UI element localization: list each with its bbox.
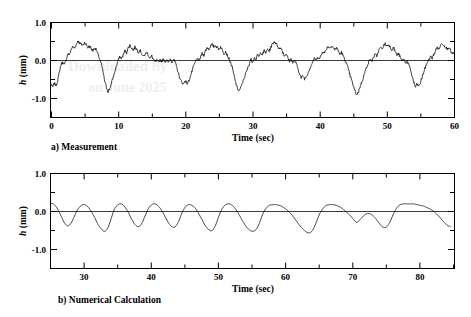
xtick-label-b-2: 50 (214, 272, 224, 282)
caption-a: a) Measurement (51, 142, 118, 153)
y-axis-title-a: h (mm) (18, 55, 29, 85)
xtick-label-a-6: 60 (450, 121, 460, 131)
x-axis-title-a: Time (sec) (232, 133, 274, 144)
ytick-label-a-1: 0.0 (35, 56, 47, 66)
xtick-label-a-2: 20 (181, 121, 191, 131)
x-axis-b: 30 40 50 60 70 80 (80, 174, 454, 283)
figure-container: Downloaded by on June 2025 1.0 0.0 (0, 0, 471, 317)
panel-a-measurement: 1.0 0.0 -1.0 (0, 0, 471, 160)
xtick-label-a-4: 40 (316, 121, 326, 131)
svg-text:h (mm): h (mm) (18, 55, 29, 85)
xtick-label-b-0: 30 (80, 272, 90, 282)
ytick-label-a-2: -1.0 (32, 94, 47, 104)
x-axis-title-b: Time (sec) (232, 284, 274, 295)
xtick-label-a-5: 50 (383, 121, 393, 131)
plot-frame-b (51, 174, 455, 269)
plot-frame-a (51, 23, 455, 118)
y-axis-title-b-unit: (mm) (18, 206, 29, 231)
chart-a-svg: 1.0 0.0 -1.0 (0, 0, 471, 160)
chart-b-svg: 1.0 0.0 -1.0 (0, 160, 471, 317)
x-axis-a: 0 10 20 30 40 50 60 (49, 23, 459, 132)
xtick-label-a-0: 0 (49, 121, 54, 131)
y-axis-title-a-unit: (mm) (18, 55, 29, 80)
panel-b-numerical-calculation: 1.0 0.0 -1.0 (0, 160, 471, 317)
xtick-label-b-3: 60 (281, 272, 291, 282)
ytick-label-a-0: 1.0 (35, 18, 47, 28)
data-series-b (51, 203, 450, 233)
xtick-label-b-4: 70 (348, 272, 358, 282)
y-axis-title-b: h (mm) (18, 206, 29, 236)
caption-b: b) Numerical Calculation (58, 295, 162, 306)
data-series-a (51, 41, 454, 95)
ytick-label-b-1: 0.0 (35, 207, 47, 217)
ytick-label-b-0: 1.0 (35, 169, 47, 179)
svg-text:h (mm): h (mm) (18, 206, 29, 236)
xtick-label-b-5: 80 (415, 272, 425, 282)
xtick-label-a-3: 30 (249, 121, 259, 131)
xtick-label-a-1: 10 (114, 121, 124, 131)
ytick-label-b-2: -1.0 (32, 245, 47, 255)
xtick-label-b-1: 40 (147, 272, 157, 282)
